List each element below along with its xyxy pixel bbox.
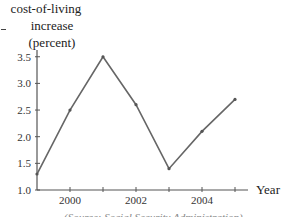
y-tick-label: 2.5 <box>17 104 31 116</box>
y-tick-label: 3.5 <box>17 51 31 63</box>
y-tick-label: 1.5 <box>17 157 31 169</box>
data-point <box>101 55 104 58</box>
data-point <box>134 103 137 106</box>
y-tick-label: 2.0 <box>17 131 31 143</box>
source-caption: (Source: Social Security Administration) <box>64 209 243 217</box>
data-line <box>37 57 235 174</box>
data-point <box>167 167 170 170</box>
data-point <box>68 108 71 111</box>
data-point <box>200 130 203 133</box>
data-point <box>233 98 236 101</box>
x-tick-label: 2000 <box>59 194 82 206</box>
data-point <box>35 172 38 175</box>
y-tick-label: 1.0 <box>17 184 31 196</box>
line-chart: 1.01.52.02.53.03.5 200020022004 Year <box>0 0 289 217</box>
y-tick-label: 3.0 <box>17 77 31 89</box>
x-tick-label: 2002 <box>125 194 147 206</box>
x-axis-title: Year <box>256 182 281 197</box>
data-points <box>35 55 236 175</box>
x-tick-label: 2004 <box>191 194 214 206</box>
axes <box>37 50 248 190</box>
